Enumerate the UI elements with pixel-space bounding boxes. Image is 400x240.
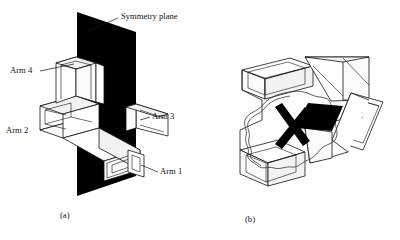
label-arm-1: Arm 1	[160, 166, 182, 176]
figure-root: Symmetry plane Arm 4 Arm 2 Arm 3 Arm 1 (…	[0, 0, 400, 240]
arm-upper-right-tube	[305, 57, 369, 101]
label-arm-4: Arm 4	[10, 65, 33, 75]
caption-b: (b)	[245, 214, 255, 224]
label-arm-3: Arm 3	[152, 111, 174, 121]
arm-4-tube	[56, 57, 104, 104]
arm-upper-left-tube	[242, 58, 313, 99]
panel-a: Symmetry plane Arm 4 Arm 2 Arm 3 Arm 1 (…	[6, 11, 182, 220]
panel-b: (b)	[240, 57, 383, 224]
arm-4-inner-face	[96, 63, 104, 104]
arm-1-opening	[128, 150, 144, 177]
label-arm-2: Arm 2	[6, 125, 28, 135]
label-symmetry-plane: Symmetry plane	[121, 11, 178, 21]
caption-a: (a)	[60, 210, 70, 220]
